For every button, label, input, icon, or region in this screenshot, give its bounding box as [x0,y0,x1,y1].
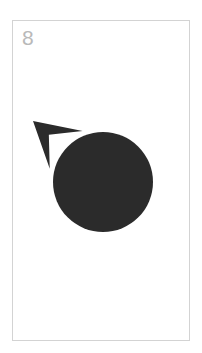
card-index-label: 8 [22,25,34,51]
screenshot-canvas: 8 [0,0,202,353]
mars-symbol-icon [13,21,191,342]
symbol-card: 8 [12,20,190,341]
symbol-artwork [13,21,191,342]
